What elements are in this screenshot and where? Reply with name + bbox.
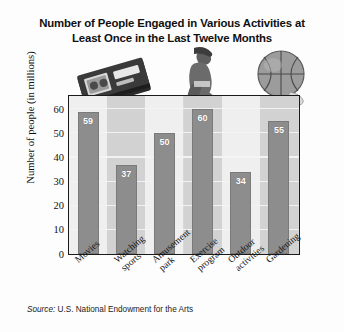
gridline: [69, 108, 299, 109]
source-text: U.S. National Endowment for the Arts: [55, 305, 193, 314]
y-tick-label: 30: [54, 176, 65, 187]
chart-title-line2: Least Once in the Last Twelve Months: [72, 32, 272, 44]
y-tick-label: 20: [54, 200, 65, 211]
y-axis-label: Number of people (in millions): [25, 42, 36, 194]
gridline: [69, 181, 299, 182]
page-title: Number of People Engaged in Various Acti…: [22, 16, 322, 45]
bar-value-label: 50: [155, 137, 174, 147]
x-axis-labels: MoviesWatchingsportsAmusementparkExercis…: [68, 257, 300, 305]
source-prefix: Source:: [27, 305, 55, 314]
bar-movies: 59: [78, 112, 99, 255]
chart-page: Number of People Engaged in Various Acti…: [0, 0, 344, 332]
source-note: Source: U.S. National Endowment for the …: [27, 305, 193, 314]
bar-value-label: 37: [117, 169, 136, 179]
chart-title-line1: Number of People Engaged in Various Acti…: [39, 17, 305, 29]
bar-exercise-program: 60: [192, 109, 213, 254]
y-tick-label: 10: [54, 224, 65, 235]
y-tick-label: 60: [54, 103, 65, 114]
bar-value-label: 59: [79, 116, 98, 126]
bar-value-label: 34: [231, 176, 250, 186]
bar-gardening: 55: [268, 121, 289, 254]
y-tick-label: 0: [59, 248, 64, 259]
bar-value-label: 55: [269, 125, 288, 135]
gridline: [69, 205, 299, 206]
bar-value-label: 60: [193, 113, 212, 123]
gridline: [69, 132, 299, 133]
y-tick-label: 40: [54, 151, 65, 162]
gridline: [69, 156, 299, 157]
y-axis: 0102030405060: [44, 95, 66, 255]
y-tick-label: 50: [54, 127, 65, 138]
